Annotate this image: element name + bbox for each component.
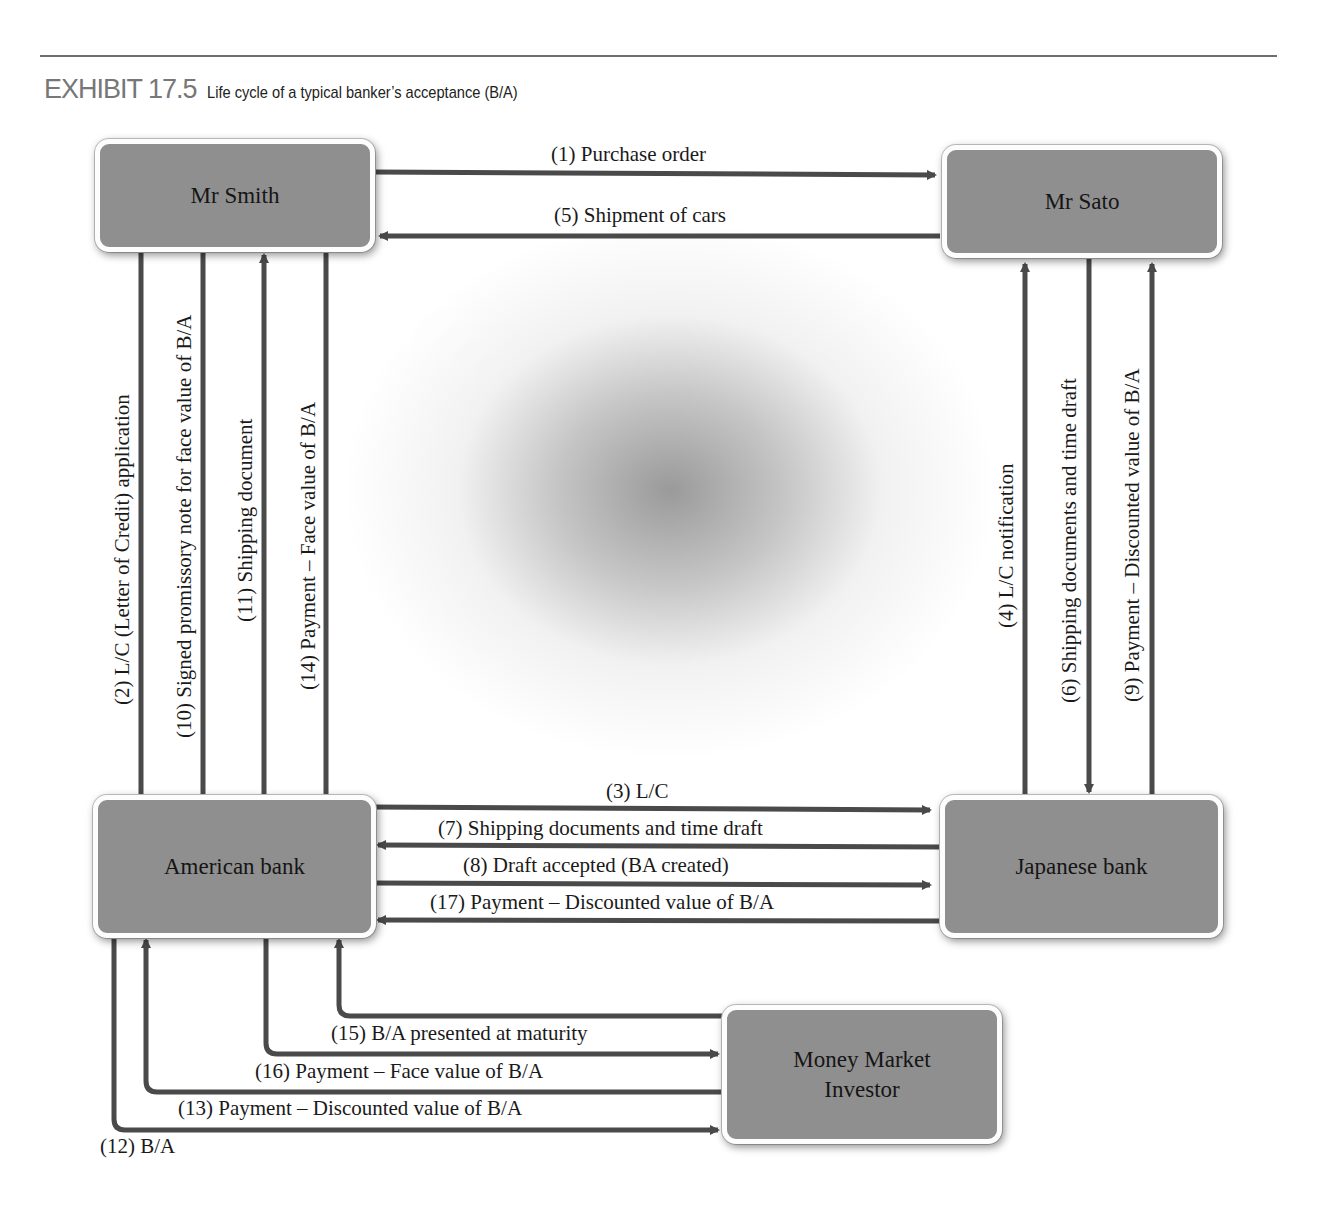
arrow-17	[378, 920, 940, 921]
flow-label-15: (15) B/A presented at maturity	[331, 1021, 588, 1045]
node-mr-sato[interactable]: Mr Sato	[942, 145, 1222, 258]
node-american-bank-label: American bank	[164, 852, 305, 882]
node-mr-smith-label: Mr Smith	[191, 181, 280, 211]
node-mr-sato-label: Mr Sato	[1045, 187, 1120, 217]
flow-label-1: (1) Purchase order	[551, 142, 706, 166]
flow-label-10: (10) Signed promissory note for face val…	[172, 315, 196, 738]
flow-label-3: (3) L/C	[606, 779, 668, 803]
flow-label-6: (6) Shipping documents and time draft	[1057, 378, 1081, 703]
flow-label-11: (11) Shipping document	[233, 419, 257, 622]
node-mmi-label-line2: Investor	[824, 1075, 899, 1105]
flow-label-2: (2) L/C (Letter of Credit) application	[110, 394, 134, 705]
flow-label-9: (9) Payment – Discounted value of B/A	[1120, 368, 1144, 702]
flow-label-12: (12) B/A	[100, 1134, 175, 1158]
node-japanese-bank[interactable]: Japanese bank	[940, 795, 1223, 938]
flow-label-17: (17) Payment – Discounted value of B/A	[430, 890, 774, 914]
node-money-market-investor[interactable]: Money Market Investor	[722, 1005, 1002, 1144]
arrow-7	[378, 845, 940, 847]
node-mmi-label-line1: Money Market	[793, 1045, 930, 1075]
node-mr-smith[interactable]: Mr Smith	[95, 139, 375, 252]
arrow-3	[372, 807, 930, 810]
flow-label-13: (13) Payment – Discounted value of B/A	[178, 1096, 522, 1120]
arrow-1	[374, 172, 935, 175]
arrow-8	[372, 883, 930, 885]
flow-label-7: (7) Shipping documents and time draft	[438, 816, 763, 840]
node-japanese-bank-label: Japanese bank	[1015, 852, 1147, 882]
arrow-15	[339, 940, 726, 1016]
flow-label-16: (16) Payment – Face value of B/A	[255, 1059, 543, 1083]
flow-label-4: (4) L/C notification	[994, 464, 1018, 628]
node-american-bank[interactable]: American bank	[93, 795, 376, 938]
flow-label-8: (8) Draft accepted (BA created)	[463, 853, 729, 877]
flow-label-5: (5) Shipment of cars	[554, 203, 726, 227]
flow-label-14: (14) Payment – Face value of B/A	[296, 402, 320, 690]
